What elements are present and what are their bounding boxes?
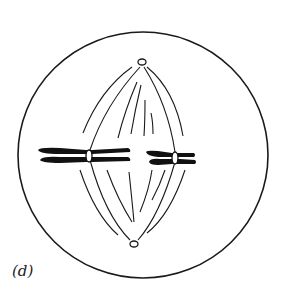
cell-diagram <box>0 0 291 300</box>
pole-bottom <box>130 241 138 247</box>
cell-membrane <box>18 32 268 278</box>
chromosome-small <box>146 151 196 165</box>
chromosome-large <box>38 148 130 163</box>
pole-top <box>138 59 146 65</box>
figure-label: (d) <box>12 262 33 280</box>
